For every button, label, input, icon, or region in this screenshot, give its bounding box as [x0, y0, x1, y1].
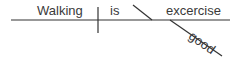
subject-word: Walking: [37, 4, 83, 17]
sentence-diagram: Walking is excercise good: [0, 0, 240, 59]
complement-word: excercise: [166, 4, 221, 17]
verb-word: is: [110, 4, 119, 17]
complement-divider: [133, 5, 152, 20]
